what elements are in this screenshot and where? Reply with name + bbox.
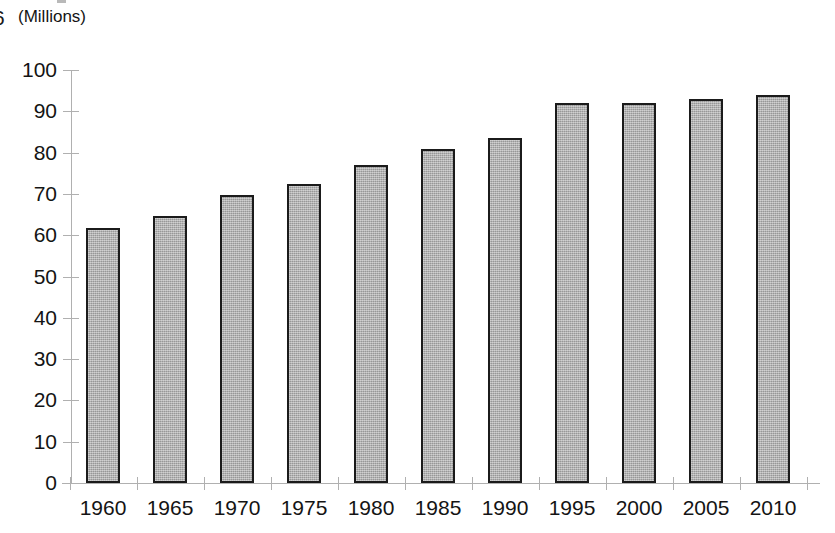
x-tick-11 — [807, 477, 808, 490]
y-axis-label-30: 30 — [11, 348, 57, 369]
y-tick-60 — [63, 235, 79, 236]
bar-1975 — [287, 184, 321, 483]
y-tick-20 — [63, 400, 79, 401]
y-tick-label-wrap: 70 — [0, 194, 57, 195]
y-tick-10 — [63, 442, 79, 443]
y-tick-80 — [63, 153, 79, 154]
y-tick-label-wrap: 80 — [0, 153, 57, 154]
y-tick-label-wrap: 20 — [0, 400, 57, 401]
x-tick-10 — [740, 477, 741, 490]
x-tick-0 — [70, 477, 71, 490]
y-tick-label-wrap: 60 — [0, 235, 57, 236]
x-tick-9 — [673, 477, 674, 490]
y-tick-30 — [63, 359, 79, 360]
y-tick-50 — [63, 277, 79, 278]
x-tick-1 — [137, 477, 138, 490]
y-tick-label-wrap: 30 — [0, 359, 57, 360]
x-tick-2 — [204, 477, 205, 490]
y-tick-label-wrap: 50 — [0, 277, 57, 278]
x-tick-3 — [271, 477, 272, 490]
y-axis-label-100: 100 — [11, 59, 57, 80]
y-tick-label-wrap: 10 — [0, 442, 57, 443]
y-axis-label-20: 20 — [11, 389, 57, 410]
y-axis-label-60: 60 — [11, 224, 57, 245]
y-tick-100 — [63, 70, 79, 71]
bar-2005 — [689, 99, 723, 483]
y-tick-label-wrap: 40 — [0, 318, 57, 319]
y-axis-label-90: 90 — [11, 100, 57, 121]
bar-2000 — [622, 103, 656, 483]
y-tick-label-wrap: 0 — [0, 483, 57, 484]
bar-1960 — [86, 228, 120, 483]
y-axis-label-80: 80 — [11, 142, 57, 163]
bar-1985 — [421, 149, 455, 483]
x-tick-7 — [539, 477, 540, 490]
y-tick-0 — [63, 483, 79, 484]
y-tick-label-wrap: 90 — [0, 111, 57, 112]
bar-1995 — [555, 103, 589, 483]
x-tick-5 — [405, 477, 406, 490]
y-axis-label-40: 40 — [11, 307, 57, 328]
y-tick-90 — [63, 111, 79, 112]
y-tick-70 — [63, 194, 79, 195]
bar-1970 — [220, 195, 254, 483]
y-tick-label-wrap: 100 — [0, 70, 57, 71]
bar-1965 — [153, 216, 187, 483]
x-tick-6 — [472, 477, 473, 490]
x-axis-line — [62, 483, 820, 484]
x-axis-label-2010: 2010 — [733, 497, 813, 518]
bar-1990 — [488, 138, 522, 483]
y-axis-label-70: 70 — [11, 183, 57, 204]
bar-2010 — [756, 95, 790, 483]
chart-figure: 6 (Millions) 0102030405060708090100 1960… — [0, 0, 835, 533]
y-axis-label-50: 50 — [11, 266, 57, 287]
plot-area: 0102030405060708090100 19601965197019751… — [0, 0, 835, 533]
y-axis-label-10: 10 — [11, 431, 57, 452]
bar-1980 — [354, 165, 388, 483]
y-tick-40 — [63, 318, 79, 319]
y-axis-label-0: 0 — [11, 472, 57, 493]
x-tick-8 — [606, 477, 607, 490]
x-tick-4 — [338, 477, 339, 490]
